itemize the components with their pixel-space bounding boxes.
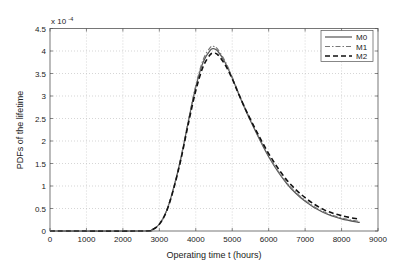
x-tick-label: 5000 [223,235,241,244]
y-tick-label: 1.5 [35,160,47,169]
x-tick-label: 3000 [150,235,168,244]
y-axis-label: PDFs of the lifetime [15,91,25,170]
x-axis-label: Operating time t (hours) [166,250,261,260]
y-tick-label: 3 [42,92,47,101]
y-multiplier-exponent: -4 [68,16,73,22]
y-tick-label: 2.5 [35,115,47,124]
y-tick-label: 2 [42,137,47,146]
x-tick-label: 9000 [369,235,387,244]
legend-label-m0: M0 [356,33,368,42]
y-tick-label: 1 [42,182,47,191]
x-tick-label: 8000 [333,235,351,244]
x-tick-label: 7000 [296,235,314,244]
y-tick-label: 3.5 [35,70,47,79]
y-tick-label: 0.5 [35,205,47,214]
x-tick-label: 2000 [114,235,132,244]
x-tick-label: 4000 [187,235,205,244]
y-tick-label: 4 [42,47,47,56]
x-tick-label: 0 [48,235,53,244]
y-tick-label: 4.5 [35,25,47,34]
x-tick-label: 6000 [260,235,278,244]
y-multiplier-base: x 10 [51,17,67,26]
x-tick-label: 1000 [78,235,96,244]
legend-label-m2: M2 [356,52,368,61]
legend-label-m1: M1 [356,43,368,52]
chart: 0100020003000400050006000700080009000 00… [0,0,399,274]
legend: M0M1M2 [321,31,373,62]
y-tick-label: 0 [42,227,47,236]
